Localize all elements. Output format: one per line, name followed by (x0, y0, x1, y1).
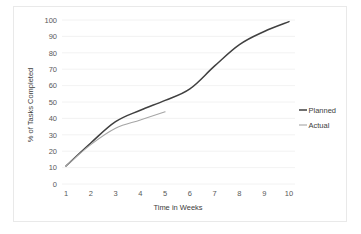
x-axis-title: Time in Weeks (153, 203, 202, 212)
x-tick-label: 3 (113, 189, 117, 198)
legend-label-planned[interactable]: Planned (309, 106, 337, 115)
chart-legend: PlannedActual (299, 106, 336, 130)
y-tick-label: 50 (49, 98, 57, 107)
data-series-group (66, 22, 289, 166)
x-tick-label: 9 (262, 189, 266, 198)
y-tick-label: 40 (49, 114, 57, 123)
gridlines-group (62, 20, 295, 184)
chart-plot-area: 0102030405060708090100 12345678910 % of … (0, 0, 361, 234)
x-tick-label: 2 (89, 189, 93, 198)
y-tick-label: 90 (49, 32, 57, 41)
x-tick-label: 4 (138, 189, 142, 198)
y-tick-label: 100 (44, 16, 57, 25)
x-tick-label: 5 (163, 189, 167, 198)
series-line-planned (66, 22, 289, 166)
y-tick-label: 70 (49, 65, 57, 74)
x-tick-label: 7 (213, 189, 217, 198)
line-chart: 0102030405060708090100 12345678910 % of … (0, 0, 361, 234)
y-axis-tick-labels: 0102030405060708090100 (44, 16, 57, 189)
y-tick-label: 20 (49, 147, 57, 156)
y-tick-label: 10 (49, 163, 57, 172)
x-tick-label: 8 (237, 189, 241, 198)
x-tick-label: 10 (285, 189, 293, 198)
y-tick-label: 60 (49, 81, 57, 90)
x-tick-label: 6 (188, 189, 192, 198)
x-axis-tick-labels: 12345678910 (64, 189, 293, 198)
y-tick-label: 30 (49, 131, 57, 140)
x-tick-label: 1 (64, 189, 68, 198)
y-tick-label: 0 (53, 180, 57, 189)
series-line-actual (66, 112, 165, 166)
y-axis-title: % of Tasks Completed (26, 68, 35, 142)
y-tick-label: 80 (49, 49, 57, 58)
legend-label-actual[interactable]: Actual (309, 121, 330, 130)
